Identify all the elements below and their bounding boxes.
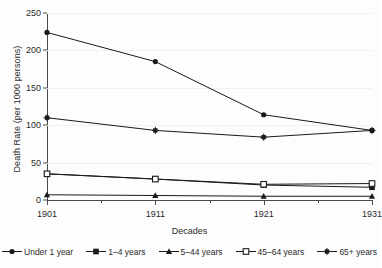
legend-item[interactable]: Under 1 year (2, 246, 73, 257)
data-point-open-square (153, 176, 159, 182)
data-point-open-square (369, 181, 375, 187)
series-line (43, 114, 375, 141)
data-point-filled-square-small (368, 127, 375, 134)
legend-item[interactable]: 65+ years (317, 246, 377, 257)
legend-item[interactable]: 1–4 years (86, 246, 145, 257)
series-polyline (47, 174, 372, 184)
y-tick-label: 50 (31, 158, 41, 168)
y-tick-label: 150 (26, 83, 41, 93)
chart-legend: Under 1 year1–4 years5–44 years45–64 yea… (0, 246, 379, 257)
data-point-filled-circle (153, 59, 158, 64)
x-minor-tick-mark (101, 200, 102, 203)
x-minor-tick-mark (210, 200, 211, 203)
y-tick-label: 250 (26, 8, 41, 18)
series-polyline (47, 195, 372, 196)
x-tick-mark (155, 200, 156, 205)
data-point-open-square (243, 249, 249, 255)
y-tick-label: 0 (36, 195, 41, 205)
data-point-filled-square-small (324, 248, 331, 255)
legend-marker-open-square-icon (236, 246, 256, 257)
y-tick-label: 100 (26, 120, 41, 130)
data-point-open-square (44, 171, 50, 177)
data-series-layer (47, 13, 372, 200)
legend-item[interactable]: 45–64 years (236, 246, 305, 257)
y-tick-label: 200 (26, 45, 41, 55)
x-tick-mark (47, 200, 48, 205)
series-polyline (47, 32, 372, 130)
x-minor-tick-mark (318, 200, 319, 203)
legend-marker-filled-square-small-icon (317, 246, 337, 257)
data-point-filled-square-small (152, 127, 159, 134)
x-tick-mark (372, 200, 373, 205)
x-tick-label: 1921 (254, 209, 274, 219)
series-polyline (47, 118, 372, 137)
legend-marker-filled-triangle-icon (159, 246, 179, 257)
series-line (44, 30, 374, 133)
data-point-filled-circle (9, 249, 14, 254)
series-line (44, 171, 375, 190)
series-line (44, 171, 375, 187)
x-tick-label: 1901 (37, 209, 57, 219)
plot-area: 050100150200250 1901191119211931 (47, 13, 372, 200)
legend-marker-filled-circle-icon (2, 246, 22, 257)
data-point-filled-circle (44, 30, 49, 35)
data-point-filled-square-small (43, 114, 50, 121)
data-point-filled-circle (261, 112, 266, 117)
data-point-filled-square (93, 249, 99, 255)
legend-label: 5–44 years (181, 247, 223, 257)
x-axis-title: Decades (0, 226, 379, 236)
legend-label: 45–64 years (258, 247, 305, 257)
y-axis-title: Death Rate (per 1000 persons) (12, 29, 22, 189)
legend-label: 65+ years (339, 247, 377, 257)
series-line (44, 192, 375, 199)
legend-item[interactable]: 5–44 years (159, 246, 223, 257)
x-tick-label: 1931 (362, 209, 382, 219)
legend-label: Under 1 year (24, 247, 73, 257)
data-point-filled-square-small (260, 134, 267, 141)
x-tick-mark (264, 200, 265, 205)
x-tick-label: 1911 (146, 209, 165, 219)
legend-marker-filled-square-icon (86, 246, 106, 257)
legend-label: 1–4 years (108, 247, 145, 257)
data-point-open-square (261, 181, 267, 187)
